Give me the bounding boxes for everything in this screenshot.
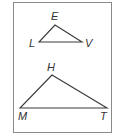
vertex-label-h: H — [47, 61, 55, 73]
vertex-label-m: M — [18, 110, 28, 122]
diagram-canvas: E L V H M T — [0, 0, 119, 136]
vertex-label-e: E — [51, 10, 59, 22]
figure-border — [14, 3, 112, 133]
vertex-label-l: L — [29, 37, 35, 49]
